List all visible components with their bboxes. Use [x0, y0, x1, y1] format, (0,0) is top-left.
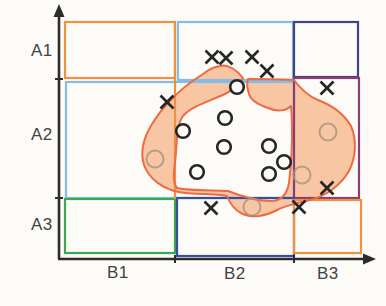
circle-marker [176, 124, 190, 138]
col-label-b2: B2 [224, 264, 246, 284]
row-label-a1: A1 [31, 41, 53, 61]
y-axis-arrow [54, 4, 65, 17]
circle-marker [217, 140, 231, 154]
cell-A3-B3 [294, 200, 361, 253]
cell-A3-B1 [65, 199, 175, 253]
grid-scatter-diagram [0, 0, 386, 306]
circle-marker [190, 165, 204, 179]
circle-marker [277, 155, 291, 169]
row-label-a2: A2 [31, 125, 53, 145]
x-axis-arrow [363, 254, 376, 265]
cell-A1-B3 [294, 22, 358, 77]
col-label-b1: B1 [107, 263, 129, 283]
cell-A1-B1 [65, 22, 175, 78]
circle-marker [218, 111, 232, 125]
circle-marker [262, 139, 276, 153]
col-label-b3: B3 [317, 264, 339, 284]
row-label-a3: A3 [31, 215, 53, 235]
diagram-canvas: A1 A2 A3 B1 B2 B3 [0, 0, 386, 306]
circle-marker [262, 167, 276, 181]
circle-marker [230, 80, 244, 94]
